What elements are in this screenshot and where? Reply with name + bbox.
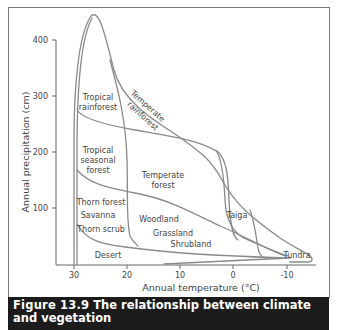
- x-axis-title: Annual temperature (°C): [142, 282, 260, 293]
- x-tick-0: 0: [230, 271, 235, 280]
- x-axis: [56, 265, 316, 269]
- y-tick-labels: 400 300 200 100: [33, 36, 48, 213]
- temperate-taiga-line: [216, 150, 288, 256]
- x-tick-10: 10: [175, 271, 185, 280]
- label-taiga: Taiga: [226, 211, 248, 220]
- label-desert: Desert: [95, 251, 122, 260]
- label-shrubland: Shrubland: [171, 240, 212, 249]
- x-tick-20: 20: [122, 271, 132, 280]
- label-tundra: Tundra: [282, 251, 310, 260]
- x-tick-labels: 30 20 10 0 -10: [69, 271, 294, 280]
- y-tick-200: 200: [33, 148, 48, 157]
- label-tropical-seasonal-1: Tropical: [82, 146, 114, 155]
- x-tick-minus10: -10: [280, 271, 293, 280]
- x-tick-30: 30: [69, 271, 79, 280]
- y-axis-title: Annual precipitation (cm): [20, 92, 31, 213]
- label-tropical-rainforest-1: Tropical: [82, 93, 114, 102]
- y-tick-400: 400: [33, 36, 48, 45]
- label-temperate-forest-2: forest: [151, 181, 174, 190]
- desert-base-line: [164, 258, 290, 264]
- label-woodland: Woodland: [139, 215, 179, 224]
- climate-vegetation-diagram: 400 300 200 100 30 20 10 0 -10 Annual te…: [0, 0, 344, 297]
- figure-number: Figure 13.9: [13, 298, 89, 312]
- y-tick-100: 100: [33, 204, 48, 213]
- taiga-tundra-line: [250, 210, 265, 258]
- label-tropical-seasonal-3: forest: [86, 166, 109, 175]
- label-temperate-forest-1: Temperate: [141, 171, 185, 180]
- label-tropical-rainforest-2: rainforest: [79, 103, 118, 112]
- label-grassland: Grassland: [153, 229, 193, 238]
- label-thorn-scrub: Thorn scrub: [76, 225, 125, 234]
- label-tropical-seasonal-2: seasonal: [80, 156, 115, 165]
- y-tick-300: 300: [33, 92, 48, 101]
- y-axis: [52, 40, 56, 265]
- label-savanna: Savanna: [81, 211, 116, 220]
- figure-caption: Figure 13.9The relationship between clim…: [8, 297, 329, 330]
- label-thorn-forest: Thorn forest: [76, 198, 126, 207]
